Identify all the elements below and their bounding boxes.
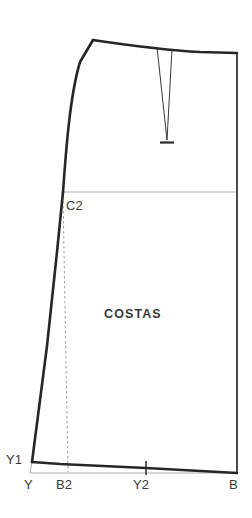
point-label-c2: C2 xyxy=(66,199,83,212)
hemline-outline xyxy=(32,462,237,473)
left-corner-tick xyxy=(30,462,32,473)
point-label-b: B xyxy=(229,478,238,491)
point-label-y2: Y2 xyxy=(133,478,149,491)
dart-right-leg xyxy=(167,49,172,140)
point-label-y: Y xyxy=(24,478,33,491)
pattern-diagram-canvas: C2 Y1 Y B2 Y2 B COSTAS xyxy=(0,0,252,518)
left-side-seam-lower-outline xyxy=(32,192,63,462)
dart-left-leg xyxy=(157,47,167,140)
b2-dashed-vertical-line xyxy=(63,196,68,472)
pattern-vector-drawing xyxy=(0,0,252,518)
point-label-y1: Y1 xyxy=(6,453,22,466)
waistline-outline xyxy=(93,40,237,53)
point-label-b2: B2 xyxy=(56,478,72,491)
pattern-piece-label: COSTAS xyxy=(104,308,162,321)
left-side-seam-upper-curve-outline xyxy=(63,40,93,192)
